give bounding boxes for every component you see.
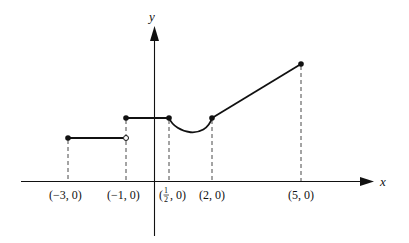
tick-label-half-close: , 0) bbox=[170, 188, 186, 202]
tick-label-5: (5, 0) bbox=[288, 188, 314, 202]
segment-4 bbox=[212, 64, 301, 118]
tick-label-half-open: ( bbox=[159, 188, 163, 202]
closed-point-neg1 bbox=[123, 115, 129, 121]
y-axis-label: y bbox=[147, 9, 155, 24]
closed-point-5 bbox=[298, 61, 304, 67]
endpoints bbox=[65, 61, 304, 141]
tick-label-half-num: 1 bbox=[164, 186, 168, 195]
tick-labels: (−3, 0) (−1, 0) ( 1 2 , 0) (2, 0) (5, 0) bbox=[49, 186, 314, 204]
tick-label-neg1: (−1, 0) bbox=[107, 188, 140, 202]
closed-point-half bbox=[166, 115, 172, 121]
x-axis-label: x bbox=[379, 174, 386, 189]
function-curve bbox=[68, 64, 301, 138]
segment-3-curve bbox=[169, 118, 212, 132]
open-point-neg1 bbox=[124, 136, 129, 141]
tick-label-neg3: (−3, 0) bbox=[49, 188, 82, 202]
closed-point-neg3 bbox=[65, 135, 71, 141]
tick-label-half-den: 2 bbox=[164, 195, 168, 204]
axes bbox=[21, 34, 368, 236]
x-axis-arrow-icon bbox=[360, 177, 374, 186]
piecewise-function-graph: x y (−3, 0) (−1, 0) ( 1 2 , 0) (2, 0) (5… bbox=[0, 0, 409, 243]
drop-lines bbox=[68, 66, 301, 181]
closed-point-2 bbox=[209, 115, 215, 121]
tick-label-2: (2, 0) bbox=[199, 188, 225, 202]
y-axis-arrow-icon bbox=[150, 26, 159, 41]
